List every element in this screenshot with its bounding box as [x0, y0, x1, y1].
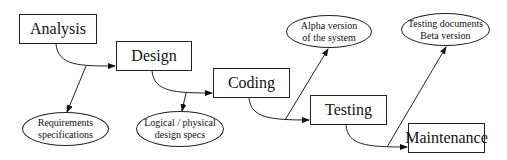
arrow-design-to-logical-specs: [182, 93, 186, 111]
output-requirements-specifications: Requirements specifications: [22, 112, 109, 146]
output-line: design specs: [155, 129, 205, 141]
output-line: specifications: [38, 129, 93, 141]
output-logical-physical-design-specs: Logical / physical design specs: [136, 111, 224, 147]
output-alpha-version: Alpha version of the system: [286, 15, 372, 48]
output-line: Beta version: [420, 30, 470, 42]
output-line: Logical / physical: [144, 117, 216, 129]
phase-design: Design: [116, 41, 192, 71]
phase-analysis: Analysis: [19, 14, 97, 44]
output-testing-documents-beta: Testing documents Beta version: [401, 13, 490, 46]
output-line: Alpha version: [301, 20, 357, 32]
arrow-analysis-to-design: [56, 44, 115, 66]
arrow-analysis-to-requirements: [67, 66, 86, 112]
output-line: Requirements: [38, 117, 94, 129]
output-line: Testing documents: [408, 18, 483, 30]
arrow-design-to-coding: [152, 71, 212, 93]
phase-testing: Testing: [310, 95, 387, 125]
arrow-coding-to-testing: [249, 98, 309, 120]
phase-coding: Coding: [213, 68, 290, 98]
output-line: of the system: [302, 32, 355, 44]
phase-maintenance: Maintenance: [408, 123, 485, 153]
